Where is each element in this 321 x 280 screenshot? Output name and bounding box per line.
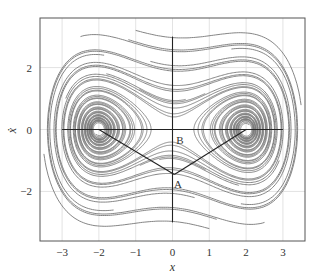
- x-tick-label: 2: [243, 246, 249, 258]
- y-axis-label: ẋ: [5, 127, 19, 134]
- y-tick-label: −2: [20, 185, 32, 197]
- x-tick-label: 0: [170, 246, 176, 258]
- point-label-B: B: [176, 134, 183, 146]
- annotations: AB: [174, 134, 183, 189]
- phase-portrait-chart: −3−2−10123−202 AB x ẋ: [0, 0, 321, 280]
- x-axis-label: x: [169, 260, 176, 274]
- trajectory-arc-0: [106, 74, 185, 101]
- reference-lines: [62, 37, 283, 223]
- x-tick-label: 3: [280, 246, 286, 258]
- point-label-A: A: [174, 178, 182, 190]
- y-tick-label: 0: [27, 124, 33, 136]
- x-tick-label: −2: [93, 246, 105, 258]
- x-tick-label: 1: [207, 246, 213, 258]
- x-tick-label: −3: [56, 246, 68, 258]
- trajectory-arc-1: [159, 158, 238, 185]
- x-tick-label: −1: [130, 246, 142, 258]
- y-tick-label: 2: [27, 62, 33, 74]
